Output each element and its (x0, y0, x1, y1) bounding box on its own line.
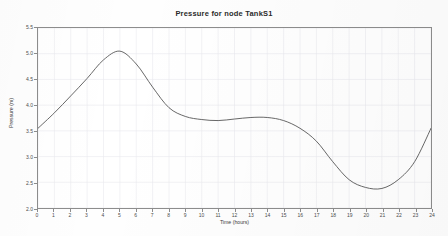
x-tick-mark (218, 209, 219, 212)
x-tick-mark (251, 209, 252, 212)
x-tick-mark (169, 209, 170, 212)
y-axis-label: Pressure (m) (8, 83, 14, 143)
x-tick-mark (70, 209, 71, 212)
x-tick-mark (350, 209, 351, 212)
x-tick-label: 1 (45, 213, 61, 218)
x-tick-label: 23 (408, 213, 424, 218)
x-tick-mark (366, 209, 367, 212)
x-tick-mark (202, 209, 203, 212)
x-tick-label: 22 (391, 213, 407, 218)
y-tick-label: 4.5 (7, 77, 33, 82)
chart-figure: Pressure for node TankS1 Pressure (m) Ti… (0, 0, 448, 236)
x-tick-label: 17 (309, 213, 325, 218)
x-tick-label: 5 (111, 213, 127, 218)
x-tick-label: 16 (292, 213, 308, 218)
y-tick-label: 5.0 (7, 51, 33, 56)
x-tick-label: 0 (29, 213, 45, 218)
chart-title: Pressure for node TankS1 (0, 9, 448, 19)
y-tick-label: 3.5 (7, 129, 33, 134)
x-tick-mark (37, 209, 38, 212)
x-tick-label: 15 (276, 213, 292, 218)
x-tick-mark (103, 209, 104, 212)
x-axis-label: Time (hours) (37, 219, 432, 225)
x-tick-mark (317, 209, 318, 212)
x-tick-label: 10 (194, 213, 210, 218)
x-tick-label: 2 (62, 213, 78, 218)
x-tick-mark (119, 209, 120, 212)
data-series-tanks1 (38, 28, 431, 208)
x-tick-label: 7 (144, 213, 160, 218)
x-tick-mark (267, 209, 268, 212)
y-tick-label: 5.5 (7, 25, 33, 30)
y-tick-label: 3.0 (7, 155, 33, 160)
x-tick-label: 18 (325, 213, 341, 218)
x-tick-label: 3 (78, 213, 94, 218)
x-tick-mark (136, 209, 137, 212)
x-tick-label: 11 (210, 213, 226, 218)
x-tick-mark (235, 209, 236, 212)
x-tick-label: 14 (259, 213, 275, 218)
x-tick-mark (383, 209, 384, 212)
x-tick-label: 20 (358, 213, 374, 218)
x-tick-mark (152, 209, 153, 212)
x-tick-label: 6 (128, 213, 144, 218)
y-tick-label: 4.0 (7, 103, 33, 108)
x-tick-label: 8 (161, 213, 177, 218)
x-tick-mark (399, 209, 400, 212)
x-tick-mark (284, 209, 285, 212)
x-tick-label: 12 (227, 213, 243, 218)
x-tick-label: 19 (342, 213, 358, 218)
plot-area (37, 27, 432, 209)
x-tick-mark (432, 209, 433, 212)
x-tick-label: 4 (95, 213, 111, 218)
y-tick-label: 2.0 (7, 207, 33, 212)
x-tick-mark (333, 209, 334, 212)
x-tick-mark (86, 209, 87, 212)
x-tick-mark (416, 209, 417, 212)
x-tick-label: 21 (375, 213, 391, 218)
x-tick-label: 13 (243, 213, 259, 218)
y-tick-label: 2.5 (7, 181, 33, 186)
x-tick-mark (300, 209, 301, 212)
x-tick-mark (53, 209, 54, 212)
x-tick-label: 24 (424, 213, 440, 218)
x-tick-label: 9 (177, 213, 193, 218)
x-tick-mark (185, 209, 186, 212)
